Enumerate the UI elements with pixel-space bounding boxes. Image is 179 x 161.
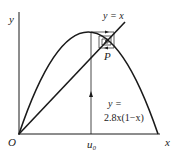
fixed-point-label: P [104, 51, 111, 62]
x-axis-label: x [165, 137, 170, 148]
u0-label: u₀ [87, 139, 96, 150]
parabola-label-line2: 2.8x(1−x) [104, 113, 144, 123]
parabola-label-line1: y = [108, 99, 122, 109]
up-arrow-icon [89, 91, 93, 97]
y-axis-label: y [9, 14, 14, 25]
cobweb-diagram: y x O u₀ P y = x y = 2.8x(1−x) [0, 0, 179, 161]
diagram-canvas [0, 0, 179, 161]
diagonal-label: y = x [103, 11, 124, 21]
origin-label: O [8, 137, 16, 148]
fixed-point-dot [105, 40, 107, 42]
